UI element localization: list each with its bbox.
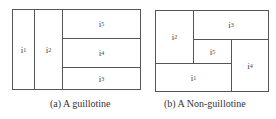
piece-i4: i4 xyxy=(231,39,268,91)
piece-i1: i1 xyxy=(13,10,34,89)
piece-i1: i1 xyxy=(156,63,231,91)
piece-i3: i3 xyxy=(62,67,140,89)
caption-non-guillotine: (b) A Non-guillotine xyxy=(164,98,246,109)
caption-guillotine: (a) A guillotine xyxy=(50,98,111,109)
piece-i4: i4 xyxy=(62,38,140,67)
piece-subscript: 4 xyxy=(250,63,253,69)
piece-i2: i2 xyxy=(156,11,193,63)
piece-subscript: 5 xyxy=(212,49,215,55)
piece-i5: i5 xyxy=(62,10,140,38)
piece-i3-top: i3 xyxy=(193,11,268,39)
piece-subscript: 1 xyxy=(193,75,196,81)
piece-subscript: 2 xyxy=(174,34,177,40)
piece-subscript: 4 xyxy=(101,50,104,56)
piece-i5: i5 xyxy=(193,39,231,63)
non-guillotine-diagram: i2 i3 i5 i1 i4 xyxy=(155,10,269,92)
piece-i2: i2 xyxy=(34,10,62,89)
piece-subscript: 2 xyxy=(48,47,51,53)
piece-subscript: 3 xyxy=(231,22,234,28)
guillotine-diagram: i1 i2 i5 i4 i3 xyxy=(12,9,141,90)
piece-subscript: 3 xyxy=(101,76,104,82)
piece-subscript: 1 xyxy=(23,47,26,53)
piece-subscript: 5 xyxy=(101,21,104,27)
